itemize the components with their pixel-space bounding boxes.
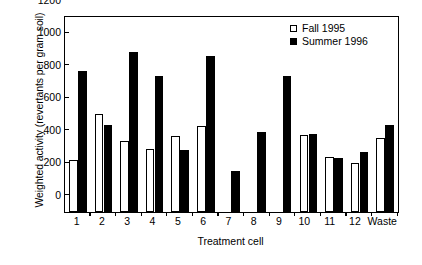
legend-item-fall-1995: Fall 1995 [290,22,368,35]
bar-summer-1996-9 [283,76,292,213]
bar-summer-1996-4 [155,76,164,213]
bar-group-6 [193,17,219,212]
legend-swatch-filled-square-icon [290,38,297,45]
x-axis-title: Treatment cell [64,235,397,247]
bar-summer-1996-waste [385,125,394,212]
x-tick-label-6: 6 [190,215,215,227]
bar-fall-1995-2 [95,114,104,212]
x-tick-label-10: 10 [292,215,317,227]
bar-group-1 [65,17,91,212]
x-tick-label-1: 1 [64,215,89,227]
bar-group-8 [244,17,270,212]
bar-fall-1995-1 [69,160,78,212]
bar-group-4 [142,17,168,212]
bar-summer-1996-3 [129,52,138,212]
bar-fall-1995-11 [325,157,334,212]
legend-label-summer-1996: Summer 1996 [302,35,368,48]
bar-group-waste [372,17,398,212]
y-tick-label: 800 [43,59,65,71]
bar-summer-1996-1 [78,71,87,212]
y-tick-0: 0 [55,185,65,203]
chart-figure: Weighted activity (revertants per gram s… [0,0,422,265]
bar-summer-1996-5 [180,150,189,212]
legend-swatch-open-square-icon [290,25,297,32]
x-tick-label-11: 11 [317,215,342,227]
bar-fall-1995-10 [300,135,309,212]
x-tick-label-12: 12 [342,215,367,227]
bar-fall-1995-12 [351,163,360,212]
x-tick-label-7: 7 [216,215,241,227]
bar-summer-1996-7 [231,171,240,212]
x-tick-label-8: 8 [241,215,266,227]
y-tick-label: 1000 [38,26,65,38]
bar-summer-1996-2 [104,125,113,212]
chart-legend: Fall 1995 Summer 1996 [290,22,368,48]
bar-group-2 [91,17,117,212]
bar-fall-1995-6 [197,126,206,212]
bar-group-5 [167,17,193,212]
bar-summer-1996-10 [309,134,318,212]
y-tick-400: 400 [43,120,65,138]
bar-summer-1996-12 [360,152,369,212]
y-tick-label: 200 [43,156,65,168]
x-tick-label-4: 4 [140,215,165,227]
y-tick-label: 400 [43,124,65,136]
x-tick-label-3: 3 [115,215,140,227]
y-tick-800: 800 [43,55,65,73]
legend-item-summer-1996: Summer 1996 [290,35,368,48]
bar-summer-1996-8 [257,132,266,212]
y-tick-200: 200 [43,153,65,171]
y-tick-label: 600 [43,91,65,103]
x-axis-ticks: 123456789101112Waste [64,215,397,227]
bar-summer-1996-6 [206,56,215,212]
y-tick-label: 1200 [38,0,65,6]
bar-fall-1995-3 [120,141,129,213]
x-tick-label-waste: Waste [368,215,397,227]
x-tick-label-2: 2 [89,215,114,227]
y-tick-600: 600 [43,88,65,106]
x-tick-label-5: 5 [165,215,190,227]
bar-fall-1995-waste [376,138,385,212]
legend-label-fall-1995: Fall 1995 [302,22,345,35]
y-tick-1200: 1200 [38,0,65,8]
bar-fall-1995-5 [171,136,180,212]
y-tick-1000: 1000 [38,23,65,41]
bar-fall-1995-4 [146,149,155,212]
bar-summer-1996-11 [334,158,343,212]
bar-group-7 [219,17,245,212]
x-tick-label-9: 9 [266,215,291,227]
y-tick-label: 0 [55,189,65,201]
bar-group-3 [116,17,142,212]
